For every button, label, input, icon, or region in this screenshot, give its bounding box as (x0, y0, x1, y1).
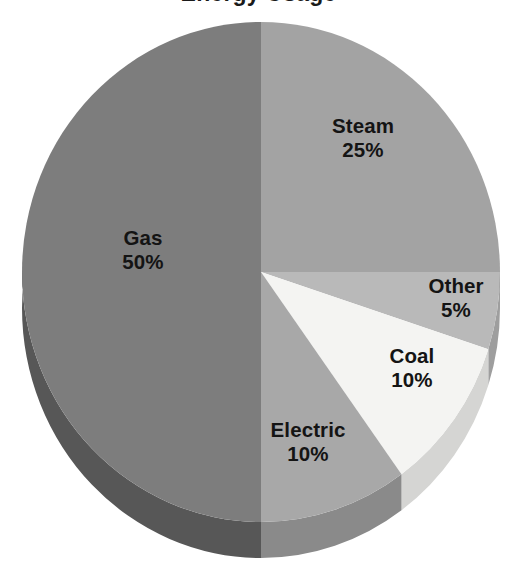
pie-chart-graphic (0, 0, 517, 574)
pie-slice-steam (261, 22, 500, 272)
pie-chart: Energy Usage Gas 50% Steam 25% Other 5% … (0, 0, 517, 574)
pie-top-face (22, 22, 500, 522)
pie-slice-gas (22, 22, 261, 522)
